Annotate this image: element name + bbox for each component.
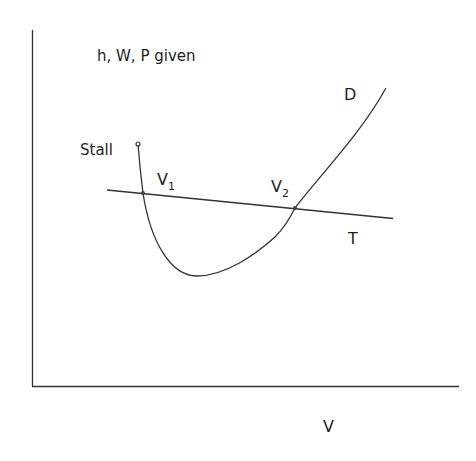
v2-point [293, 206, 297, 210]
diagram: h, W, P given D Stall V1 V2 T V [0, 0, 476, 461]
stall-label: Stall [80, 141, 113, 159]
drag-label: D [344, 85, 356, 104]
thrust-label: T [347, 229, 358, 248]
v1-label-main: V [157, 170, 168, 189]
given-annotation: h, W, P given [97, 47, 196, 65]
v1-label: V1 [157, 170, 175, 193]
stall-point [136, 142, 140, 146]
v1-point [141, 191, 145, 195]
x-axis-label: V [323, 417, 334, 436]
v1-label-sub: 1 [168, 180, 175, 193]
v2-label: V2 [271, 177, 289, 200]
v2-label-sub: 2 [282, 187, 289, 200]
thrust-line [107, 190, 393, 219]
v2-label-main: V [271, 177, 282, 196]
